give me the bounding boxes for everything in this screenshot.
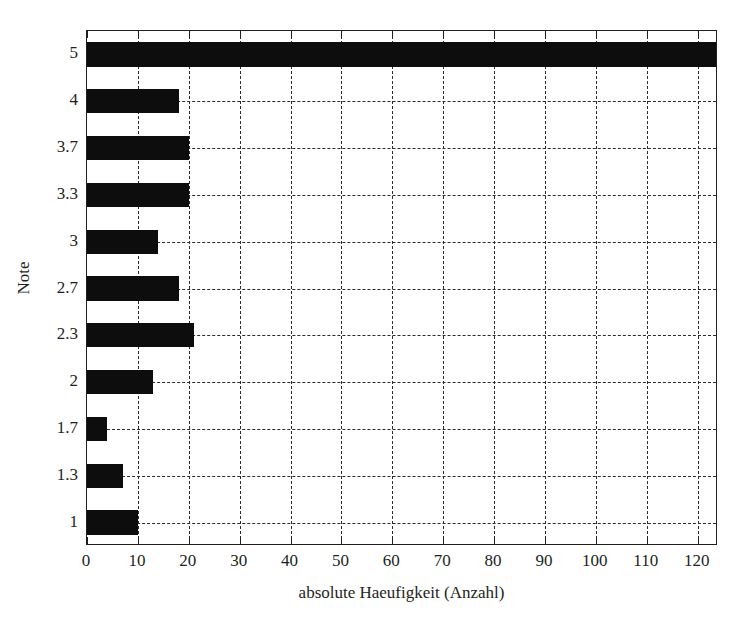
y-tick-label: 1.3: [57, 465, 78, 485]
x-axis-tick-top: [494, 31, 495, 38]
x-axis-tick: [494, 537, 495, 544]
bar: [87, 370, 153, 394]
bar: [87, 89, 179, 113]
y-gridline: [87, 476, 716, 477]
x-axis-tick-top: [392, 31, 393, 38]
x-axis-tick: [596, 537, 597, 544]
x-gridline: [443, 31, 444, 544]
x-axis-tick: [545, 537, 546, 544]
bar: [87, 276, 179, 300]
plot-area: [86, 30, 717, 545]
x-axis-tick-top: [596, 31, 597, 38]
y-tick-label: 2.3: [57, 324, 78, 344]
x-axis-tick-top: [138, 31, 139, 38]
y-tick-label: 3.3: [57, 184, 78, 204]
x-axis-tick-top: [647, 31, 648, 38]
y-tick-label: 2.7: [57, 278, 78, 298]
y-gridline: [87, 429, 716, 430]
x-gridline: [189, 31, 190, 544]
x-gridline: [698, 31, 699, 544]
x-axis-tick-top: [341, 31, 342, 38]
y-gridline: [87, 289, 716, 290]
y-gridline: [87, 523, 716, 524]
x-gridline: [545, 31, 546, 544]
x-gridline: [494, 31, 495, 544]
y-tick-label: 3: [70, 231, 79, 251]
x-axis-tick: [392, 537, 393, 544]
x-tick-label: 60: [383, 551, 400, 571]
y-tick-label: 4: [70, 90, 79, 110]
x-tick-label: 10: [128, 551, 145, 571]
x-axis-tick-top: [291, 31, 292, 38]
x-axis-tick-top: [443, 31, 444, 38]
x-axis-tick: [138, 537, 139, 544]
y-axis-tick-labels: 543.73.332.72.321.71.31: [0, 0, 78, 629]
x-axis-tick-top: [87, 31, 88, 38]
x-axis-tick-top: [240, 31, 241, 38]
x-axis-tick: [647, 537, 648, 544]
x-tick-label: 90: [535, 551, 552, 571]
bar: [87, 417, 107, 441]
x-tick-label: 50: [332, 551, 349, 571]
x-tick-label: 40: [281, 551, 298, 571]
x-axis-title: absolute Haeufigkeit (Anzahl): [86, 583, 717, 603]
x-gridline: [341, 31, 342, 544]
x-gridline: [647, 31, 648, 544]
bar: [87, 510, 138, 534]
y-tick-label: 5: [70, 43, 79, 63]
y-gridline: [87, 101, 716, 102]
x-axis-tick: [341, 537, 342, 544]
y-tick-label: 2: [70, 371, 79, 391]
x-axis-tick: [189, 537, 190, 544]
x-tick-label: 20: [179, 551, 196, 571]
bar: [87, 464, 123, 488]
y-tick-label: 1: [70, 512, 79, 532]
x-axis-tick: [443, 537, 444, 544]
x-gridline: [392, 31, 393, 544]
x-tick-label: 110: [633, 551, 658, 571]
x-axis-tick: [291, 537, 292, 544]
x-axis-tick: [698, 537, 699, 544]
x-gridline: [240, 31, 241, 544]
x-axis-tick-top: [698, 31, 699, 38]
bar: [87, 323, 194, 347]
x-axis-tick: [240, 537, 241, 544]
x-axis-tick-top: [545, 31, 546, 38]
x-axis-tick: [87, 537, 88, 544]
x-tick-label: 120: [684, 551, 710, 571]
bar-chart-figure: 543.73.332.72.321.71.31 absolute Haeufig…: [0, 0, 746, 629]
bar: [87, 230, 158, 254]
bar: [87, 42, 717, 66]
x-tick-label: 100: [582, 551, 608, 571]
y-axis-title: Note: [14, 248, 34, 308]
x-gridline: [291, 31, 292, 544]
x-gridline: [596, 31, 597, 544]
y-gridline: [87, 242, 716, 243]
x-tick-label: 80: [485, 551, 502, 571]
y-tick-label: 3.7: [57, 137, 78, 157]
x-tick-label: 0: [82, 551, 91, 571]
x-axis-tick-top: [189, 31, 190, 38]
bar: [87, 136, 189, 160]
x-tick-label: 70: [434, 551, 451, 571]
bar: [87, 183, 189, 207]
y-tick-label: 1.7: [57, 418, 78, 438]
y-gridline: [87, 382, 716, 383]
x-tick-label: 30: [230, 551, 247, 571]
